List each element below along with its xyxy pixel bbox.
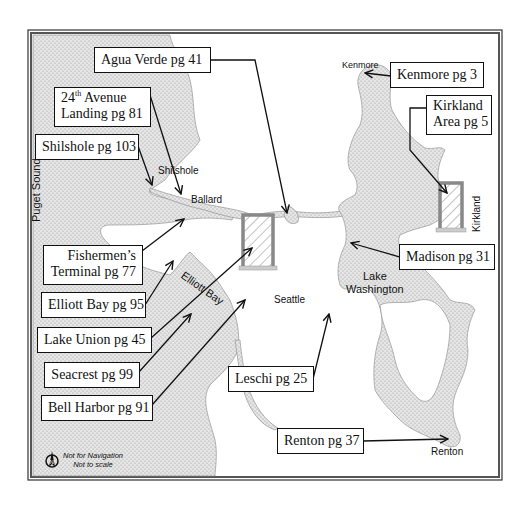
callout-24th-avenue-line1: 24th Avenue: [61, 90, 144, 106]
callout-renton-text: Renton pg 37: [284, 433, 359, 448]
lake-washington-label-line2: Washington: [346, 283, 404, 295]
callout-fishermens-line2: Terminal pg 77: [50, 264, 136, 280]
callout-agua-verde[interactable]: Agua Verde pg 41: [94, 47, 211, 73]
callout-elliott-bay[interactable]: Elliott Bay pg 95: [41, 292, 146, 318]
puget-sound-label: Puget Sound: [30, 158, 42, 222]
renton-place-label: Renton: [431, 446, 463, 457]
callout-shilshole[interactable]: Shilshole pg 103: [35, 134, 139, 160]
kirkland-detail-marker: [436, 183, 466, 232]
callout-kenmore[interactable]: Kenmore pg 3: [390, 62, 484, 88]
callout-bell-harbor-text: Bell Harbor pg 91: [48, 400, 149, 415]
callout-fishermens-line1: Fishermen’s: [50, 248, 136, 264]
not-to-scale-text: Not to scale: [58, 460, 128, 469]
callout-lake-union-text: Lake Union pg 45: [44, 332, 145, 347]
callout-shilshole-text: Shilshole pg 103: [42, 139, 136, 154]
callout-24th-avenue-landing[interactable]: 24th Avenue Landing pg 81: [54, 87, 151, 127]
callout-leschi[interactable]: Leschi pg 25: [228, 366, 314, 392]
callout-elliott-bay-text: Elliott Bay pg 95: [48, 297, 144, 312]
callout-lake-union[interactable]: Lake Union pg 45: [37, 327, 152, 353]
callout-agua-verde-text: Agua Verde pg 41: [101, 52, 202, 67]
callout-kirkland-line2: Area pg 5: [433, 114, 485, 130]
kirkland-place-label: Kirkland: [471, 196, 482, 232]
callout-seacrest-text: Seacrest pg 99: [51, 367, 133, 382]
callout-fishermens-terminal[interactable]: Fishermen’s Terminal pg 77: [43, 245, 143, 285]
callout-renton[interactable]: Renton pg 37: [277, 428, 364, 454]
callout-madison[interactable]: Madison pg 31: [399, 244, 495, 270]
lake-washington-label-line1: Lake: [363, 270, 387, 282]
not-for-navigation-text: Not for Navigation: [58, 451, 128, 460]
lake-union-detail-marker: [239, 215, 277, 270]
svg-text:N: N: [50, 459, 54, 465]
callout-kirkland-line1: Kirkland: [433, 98, 485, 114]
ballard-place-label: Ballard: [191, 194, 222, 205]
seattle-place-label: Seattle: [274, 294, 305, 305]
callout-seacrest[interactable]: Seacrest pg 99: [44, 362, 140, 388]
callout-kirkland-area[interactable]: Kirkland Area pg 5: [426, 95, 492, 135]
callout-bell-harbor[interactable]: Bell Harbor pg 91: [41, 395, 153, 421]
callout-24th-avenue-line2: Landing pg 81: [61, 106, 144, 122]
disclaimer-note: Not for Navigation Not to scale: [58, 451, 128, 469]
callout-kenmore-text: Kenmore pg 3: [397, 67, 477, 82]
callout-leschi-text: Leschi pg 25: [235, 371, 307, 386]
callout-madison-text: Madison pg 31: [406, 249, 490, 264]
kenmore-place-label: Kenmore: [342, 60, 379, 70]
shilshole-place-label: Shilshole: [158, 165, 199, 176]
